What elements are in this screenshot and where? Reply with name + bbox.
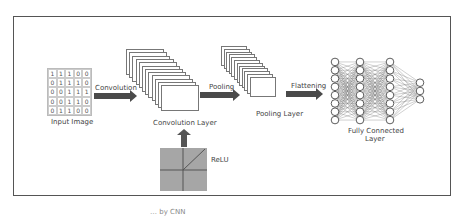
neuron-node: [331, 83, 339, 91]
neuron-node: [386, 58, 394, 66]
neuron-node: [386, 116, 394, 124]
neuron-node: [356, 83, 364, 91]
neuron-node: [331, 58, 339, 66]
neuron-node: [356, 108, 364, 116]
neuron-node: [386, 91, 394, 99]
neuron-node: [416, 79, 424, 87]
neuron-node: [356, 58, 364, 66]
neuron-node: [416, 87, 424, 95]
neuron-node: [356, 91, 364, 99]
fully-connected-label-line1: Fully Connected: [348, 127, 404, 135]
neuron-node: [331, 108, 339, 116]
neuron-node: [386, 83, 394, 91]
figure-caption: … by CNN: [150, 208, 185, 216]
neuron-node: [386, 75, 394, 83]
neuron-node: [331, 75, 339, 83]
neuron-node: [331, 100, 339, 108]
neuron-node: [386, 108, 394, 116]
neuron-node: [416, 96, 424, 104]
fully-connected-network: [0, 0, 462, 219]
neuron-node: [356, 116, 364, 124]
neuron-node: [331, 66, 339, 74]
neuron-node: [386, 100, 394, 108]
neuron-node: [356, 66, 364, 74]
neuron-node: [331, 116, 339, 124]
fully-connected-label-line2: Layer: [365, 135, 385, 143]
neuron-node: [356, 100, 364, 108]
neuron-node: [356, 75, 364, 83]
neuron-node: [331, 91, 339, 99]
neuron-node: [386, 66, 394, 74]
